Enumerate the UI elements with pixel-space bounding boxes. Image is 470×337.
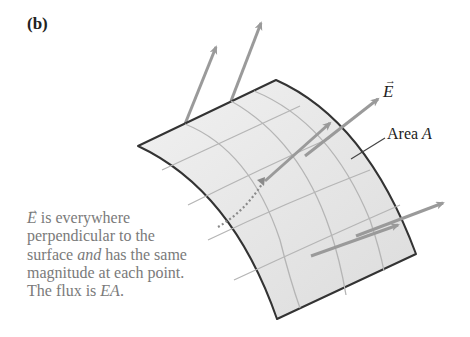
caption-text: →E is everywhere perpendicular to the su… (27, 209, 187, 300)
field-vector-label: → E (383, 82, 393, 102)
caption-line-1: →E is everywhere (27, 209, 187, 227)
vector-arrow-icon: → (28, 201, 38, 219)
caption-line-3: surface and has the same (27, 246, 187, 264)
caption-line-5: The flux is EA. (27, 282, 187, 300)
vector-arrow-icon: → (385, 74, 396, 86)
area-label: Area A (387, 125, 432, 143)
caption-line-4: magnitude at each point. (27, 264, 187, 282)
caption-line-2: perpendicular to the (27, 227, 187, 245)
field-symbol: →E (27, 209, 37, 226)
